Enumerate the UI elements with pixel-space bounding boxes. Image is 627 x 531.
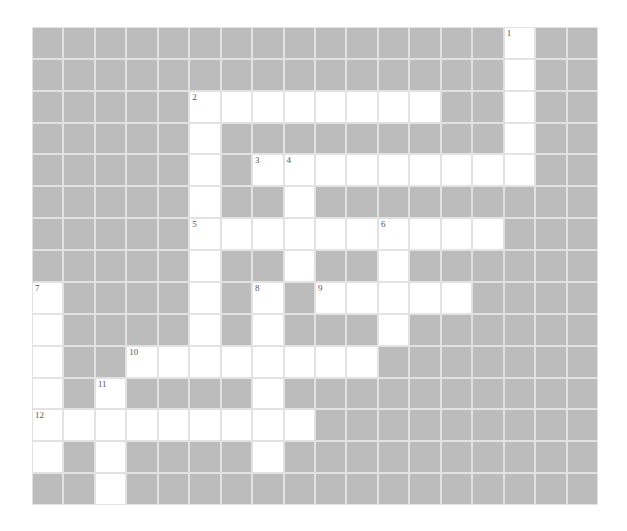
crossword-block xyxy=(568,251,597,281)
crossword-block xyxy=(64,28,93,58)
crossword-cell[interactable] xyxy=(253,347,282,377)
crossword-cell[interactable] xyxy=(316,347,345,377)
crossword-cell[interactable]: 8 xyxy=(253,283,282,313)
crossword-cell[interactable] xyxy=(379,283,408,313)
crossword-cell[interactable] xyxy=(410,219,439,249)
crossword-block xyxy=(33,155,62,185)
crossword-cell[interactable] xyxy=(190,251,219,281)
crossword-cell[interactable] xyxy=(222,347,251,377)
crossword-cell[interactable]: 6 xyxy=(379,219,408,249)
crossword-cell[interactable] xyxy=(379,251,408,281)
crossword-cell[interactable] xyxy=(190,155,219,185)
crossword-block xyxy=(222,315,251,345)
crossword-cell[interactable] xyxy=(64,410,93,440)
crossword-cell[interactable] xyxy=(442,155,471,185)
crossword-cell[interactable] xyxy=(222,92,251,122)
crossword-block xyxy=(96,187,125,217)
crossword-cell[interactable] xyxy=(190,347,219,377)
crossword-block xyxy=(127,283,156,313)
crossword-cell[interactable] xyxy=(379,155,408,185)
crossword-cell[interactable] xyxy=(505,124,534,154)
crossword-cell[interactable] xyxy=(473,155,502,185)
crossword-cell[interactable] xyxy=(505,92,534,122)
crossword-block xyxy=(64,60,93,90)
crossword-cell[interactable] xyxy=(473,219,502,249)
crossword-cell[interactable] xyxy=(347,92,376,122)
crossword-cell[interactable] xyxy=(159,410,188,440)
crossword-cell[interactable] xyxy=(253,379,282,409)
crossword-cell[interactable]: 1 xyxy=(505,28,534,58)
crossword-cell[interactable] xyxy=(33,315,62,345)
crossword-cell[interactable]: 3 xyxy=(253,155,282,185)
crossword-cell[interactable] xyxy=(222,219,251,249)
crossword-cell[interactable] xyxy=(347,219,376,249)
crossword-block xyxy=(159,219,188,249)
crossword-cell[interactable] xyxy=(33,442,62,472)
crossword-block xyxy=(379,187,408,217)
crossword-cell[interactable] xyxy=(379,315,408,345)
crossword-cell[interactable]: 7 xyxy=(33,283,62,313)
crossword-cell[interactable] xyxy=(316,219,345,249)
crossword-block xyxy=(410,410,439,440)
crossword-cell[interactable] xyxy=(33,379,62,409)
crossword-block xyxy=(285,283,314,313)
crossword-cell[interactable] xyxy=(253,92,282,122)
crossword-cell[interactable]: 11 xyxy=(96,379,125,409)
crossword-block xyxy=(64,155,93,185)
crossword-cell[interactable] xyxy=(190,283,219,313)
crossword-cell[interactable] xyxy=(285,410,314,440)
crossword-cell[interactable] xyxy=(505,60,534,90)
crossword-cell[interactable] xyxy=(316,155,345,185)
crossword-cell[interactable]: 2 xyxy=(190,92,219,122)
crossword-cell[interactable]: 12 xyxy=(33,410,62,440)
clue-number: 12 xyxy=(35,411,44,420)
crossword-block xyxy=(536,92,565,122)
crossword-cell[interactable] xyxy=(33,347,62,377)
crossword-block xyxy=(568,60,597,90)
crossword-cell[interactable] xyxy=(190,410,219,440)
crossword-cell[interactable] xyxy=(127,410,156,440)
crossword-cell[interactable]: 9 xyxy=(316,283,345,313)
crossword-cell[interactable] xyxy=(442,283,471,313)
crossword-cell[interactable] xyxy=(159,347,188,377)
crossword-cell[interactable] xyxy=(222,410,251,440)
crossword-cell[interactable] xyxy=(442,219,471,249)
crossword-cell[interactable] xyxy=(316,92,345,122)
crossword-block xyxy=(285,442,314,472)
crossword-cell[interactable] xyxy=(253,315,282,345)
crossword-cell[interactable]: 4 xyxy=(285,155,314,185)
crossword-block xyxy=(347,251,376,281)
crossword-block xyxy=(536,251,565,281)
crossword-block xyxy=(33,251,62,281)
crossword-cell[interactable] xyxy=(190,187,219,217)
crossword-cell[interactable] xyxy=(96,410,125,440)
crossword-cell[interactable] xyxy=(96,442,125,472)
crossword-cell[interactable]: 10 xyxy=(127,347,156,377)
crossword-cell[interactable] xyxy=(347,155,376,185)
crossword-cell[interactable] xyxy=(253,410,282,440)
crossword-block xyxy=(64,347,93,377)
crossword-cell[interactable] xyxy=(410,92,439,122)
crossword-cell[interactable] xyxy=(285,187,314,217)
crossword-cell[interactable] xyxy=(96,474,125,504)
crossword-block xyxy=(473,315,502,345)
crossword-cell[interactable] xyxy=(285,347,314,377)
crossword-block xyxy=(568,410,597,440)
crossword-block xyxy=(33,187,62,217)
crossword-cell[interactable] xyxy=(190,315,219,345)
crossword-cell[interactable] xyxy=(410,283,439,313)
crossword-cell[interactable] xyxy=(285,92,314,122)
crossword-block xyxy=(159,155,188,185)
crossword-cell[interactable] xyxy=(347,283,376,313)
crossword-cell[interactable] xyxy=(379,92,408,122)
crossword-block xyxy=(473,28,502,58)
crossword-cell[interactable] xyxy=(505,155,534,185)
crossword-cell[interactable] xyxy=(253,219,282,249)
crossword-cell[interactable]: 5 xyxy=(190,219,219,249)
crossword-cell[interactable] xyxy=(285,219,314,249)
crossword-cell[interactable] xyxy=(285,251,314,281)
crossword-cell[interactable] xyxy=(410,155,439,185)
crossword-cell[interactable] xyxy=(190,124,219,154)
crossword-cell[interactable] xyxy=(347,347,376,377)
crossword-cell[interactable] xyxy=(253,442,282,472)
